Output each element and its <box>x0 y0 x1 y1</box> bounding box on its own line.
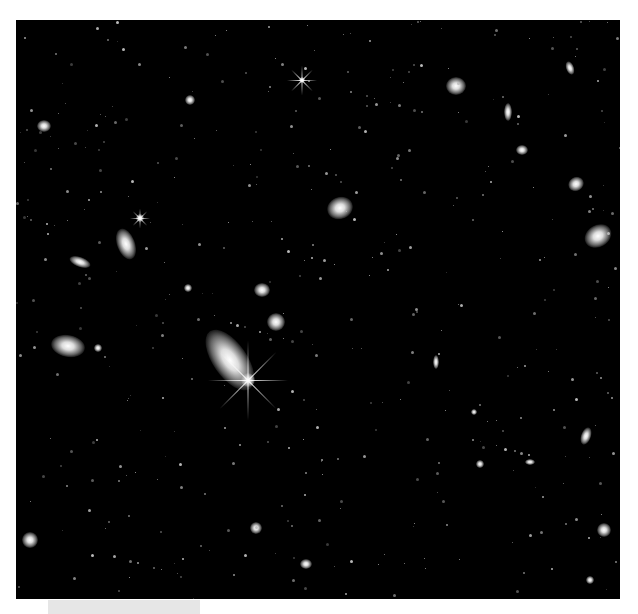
faint-object <box>135 472 136 473</box>
faint-object <box>174 177 175 178</box>
faint-object <box>27 216 28 217</box>
faint-object <box>50 168 52 170</box>
faint-object <box>380 252 383 255</box>
galaxy <box>516 145 528 155</box>
faint-object <box>104 356 106 358</box>
faint-object <box>303 439 304 440</box>
faint-object <box>407 381 410 384</box>
faint-object <box>390 102 391 103</box>
faint-object <box>390 77 391 78</box>
faint-object <box>494 34 496 36</box>
faint-object <box>179 463 182 466</box>
faint-object <box>400 179 402 181</box>
faint-object <box>397 154 400 157</box>
faint-object <box>482 446 485 449</box>
faint-object <box>126 475 127 476</box>
faint-object <box>544 257 545 258</box>
faint-object <box>603 185 604 186</box>
faint-object <box>366 105 368 107</box>
faint-object <box>436 472 439 475</box>
faint-object <box>269 281 271 283</box>
faint-object <box>370 402 372 404</box>
faint-object <box>551 47 554 50</box>
faint-object <box>271 221 272 222</box>
faint-object <box>174 563 175 564</box>
faint-object <box>304 494 306 496</box>
faint-object <box>283 313 284 314</box>
faint-object <box>442 500 445 503</box>
faint-object <box>281 63 284 66</box>
faint-object <box>565 523 567 525</box>
faint-object <box>78 282 81 285</box>
faint-object <box>74 142 77 145</box>
faint-object <box>85 274 87 276</box>
faint-object <box>73 577 76 580</box>
faint-object <box>24 162 25 163</box>
faint-object <box>296 165 299 168</box>
faint-object <box>287 520 289 522</box>
faint-object <box>523 572 525 574</box>
faint-object <box>194 138 195 139</box>
faint-object <box>607 232 610 235</box>
faint-object <box>413 526 414 527</box>
faint-object <box>70 450 73 453</box>
faint-object <box>589 21 590 22</box>
faint-object <box>597 80 599 82</box>
faint-object <box>608 287 609 288</box>
faint-object <box>288 447 290 449</box>
faint-object <box>502 96 504 98</box>
faint-object <box>366 95 368 97</box>
faint-object <box>512 542 513 543</box>
faint-object <box>592 208 594 210</box>
faint-object <box>311 189 312 190</box>
faint-object <box>128 196 129 197</box>
caption-bar <box>48 600 200 614</box>
faint-object <box>98 149 100 151</box>
faint-object <box>91 554 94 557</box>
faint-object <box>244 326 246 328</box>
galaxy <box>471 409 477 415</box>
faint-object <box>539 259 541 261</box>
faint-object <box>448 68 449 69</box>
faint-object <box>607 392 609 394</box>
faint-object <box>150 222 151 223</box>
faint-object <box>420 21 421 22</box>
faint-object <box>460 304 463 307</box>
faint-object <box>596 280 599 283</box>
faint-object <box>564 134 567 137</box>
faint-object <box>603 210 604 211</box>
faint-object <box>79 327 82 330</box>
faint-object <box>239 444 241 446</box>
faint-object <box>457 82 460 85</box>
faint-object <box>250 164 251 165</box>
galaxy <box>267 313 285 331</box>
galaxy <box>580 219 615 252</box>
faint-object <box>588 210 591 213</box>
faint-object <box>403 82 404 83</box>
faint-object <box>396 157 399 160</box>
faint-object <box>396 234 397 235</box>
faint-object <box>516 590 519 593</box>
faint-object <box>350 33 351 34</box>
faint-object <box>92 441 95 444</box>
faint-object <box>513 470 514 471</box>
faint-object <box>556 349 557 350</box>
faint-object <box>32 299 35 302</box>
faint-object <box>542 496 544 498</box>
faint-object <box>517 115 520 118</box>
faint-object <box>290 125 293 128</box>
faint-object <box>323 259 326 262</box>
faint-object <box>524 365 526 367</box>
faint-object <box>98 241 101 244</box>
faint-object <box>536 349 537 350</box>
galaxy <box>254 283 270 297</box>
faint-object <box>105 528 106 529</box>
faint-object <box>129 560 132 563</box>
faint-object <box>485 171 486 172</box>
galaxy <box>324 193 356 223</box>
faint-object <box>384 242 385 243</box>
faint-object <box>459 559 460 560</box>
faint-object <box>105 116 106 117</box>
deep-field-image <box>16 20 620 599</box>
faint-object <box>58 113 59 114</box>
